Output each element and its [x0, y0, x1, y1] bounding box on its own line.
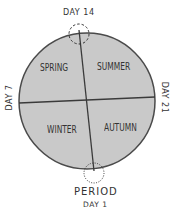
quadrant-summer-label: SUMMER	[97, 61, 130, 72]
quadrant-winter-label: WINTER	[47, 124, 77, 135]
day-7-label: DAY 7	[5, 83, 14, 113]
quadrant-autumn-label: AUTUMN	[104, 122, 137, 133]
day-21-label: DAY 21	[160, 81, 169, 115]
day-1-label: DAY 1	[83, 200, 107, 209]
period-label: PERIOD	[74, 186, 118, 197]
day-14-label: DAY 14	[63, 8, 94, 17]
quadrant-spring-label: SPRING	[40, 62, 68, 73]
